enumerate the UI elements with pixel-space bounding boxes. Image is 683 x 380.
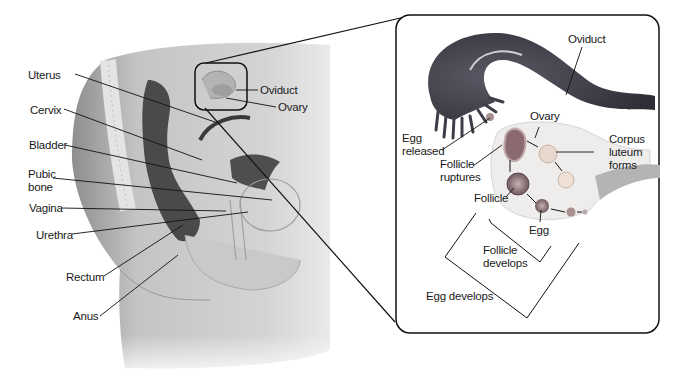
label-ovary-small: Ovary bbox=[278, 101, 308, 114]
label-corpus-luteum-forms: Corpus luteum forms bbox=[609, 133, 645, 172]
label-bladder: Bladder bbox=[29, 139, 67, 152]
reproductive-diagram: Uterus Cervix Bladder Pubic bone Vagina … bbox=[0, 0, 683, 380]
label-cervix: Cervix bbox=[30, 104, 61, 117]
label-follicle-develops: Follicle develops bbox=[483, 244, 527, 270]
label-inset-oviduct: Oviduct bbox=[568, 33, 606, 46]
label-uterus: Uterus bbox=[28, 69, 61, 82]
label-pubic-bone: Pubic bone bbox=[28, 168, 56, 194]
label-egg-released: Egg released bbox=[402, 132, 445, 158]
label-follicle-ruptures: Follicle ruptures bbox=[440, 158, 481, 184]
label-egg-develops: Egg develops bbox=[426, 290, 493, 303]
label-urethra: Urethra bbox=[36, 229, 73, 242]
label-follicle: Follicle bbox=[474, 192, 508, 205]
label-rectum: Rectum bbox=[66, 271, 104, 284]
label-inset-ovary: Ovary bbox=[530, 110, 560, 123]
label-anus: Anus bbox=[73, 310, 98, 323]
label-egg: Egg bbox=[529, 224, 549, 237]
label-oviduct-small: Oviduct bbox=[260, 84, 298, 97]
diagram-artwork bbox=[0, 0, 683, 380]
label-vagina: Vagina bbox=[29, 202, 63, 215]
